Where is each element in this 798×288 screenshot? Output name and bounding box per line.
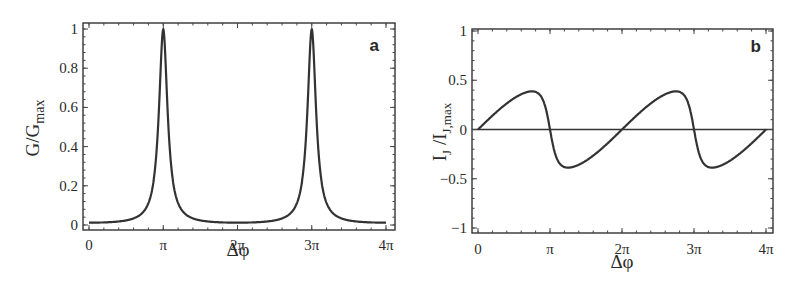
x-tick-label: 4π (758, 241, 774, 257)
y-tick-label: 0.5 (448, 72, 467, 88)
chart-a-y-axis-label: G/Gmax (22, 100, 47, 157)
chart-a: 0π2π3π4π 00.20.40.60.81 a Δφ G/Gmax (22, 21, 395, 260)
x-tick-label: π (546, 241, 554, 257)
x-tick-label: π (159, 237, 167, 253)
chart-b-x-axis-label: Δφ (610, 251, 633, 272)
chart-b-frame (472, 29, 773, 233)
chart-a-x-axis-label: Δφ (226, 239, 249, 260)
x-tick-label: 3π (686, 241, 702, 257)
chart-a-y-tick-labels: 00.20.40.60.81 (59, 21, 78, 233)
chart-a-y-label-sub: max (32, 100, 47, 124)
x-tick-label: 0 (85, 237, 93, 253)
chart-b-panel-label: b (751, 37, 761, 56)
x-tick-label: 3π (304, 237, 320, 253)
y-tick-label: 0.4 (59, 139, 78, 155)
y-tick-label: 0.2 (59, 178, 78, 194)
chart-a-panel-label: a (370, 36, 380, 55)
y-tick-label: 0 (460, 122, 468, 138)
y-tick-label: 0.6 (59, 99, 78, 115)
chart-b-y-label-mid: /I (429, 133, 450, 149)
chart-a-frame (83, 23, 395, 230)
y-tick-label: −0.5 (440, 171, 467, 187)
chart-a-conductance-curve (89, 29, 386, 223)
chart-b-ticks (472, 29, 773, 233)
chart-b-y-axis-label: IJ /IJ,max (429, 102, 454, 161)
y-tick-label: 1 (71, 21, 79, 37)
chart-a-y-label-main: G/G (22, 123, 43, 156)
y-tick-label: −1 (451, 220, 467, 236)
figure: 0π2π3π4π 00.20.40.60.81 a Δφ G/Gmax 0π2π… (0, 0, 798, 288)
y-tick-label: 0.8 (59, 60, 78, 76)
y-tick-label: 1 (460, 23, 468, 39)
y-tick-label: 0 (71, 217, 79, 233)
chart-a-ticks (83, 23, 395, 230)
x-tick-label: 0 (474, 241, 482, 257)
x-tick-label: 4π (378, 237, 394, 253)
chart-b-y-label-sub2: J,max (439, 102, 454, 133)
chart-b: 0π2π3π4π −1−0.500.51 b Δφ IJ /IJ,max (429, 23, 774, 272)
